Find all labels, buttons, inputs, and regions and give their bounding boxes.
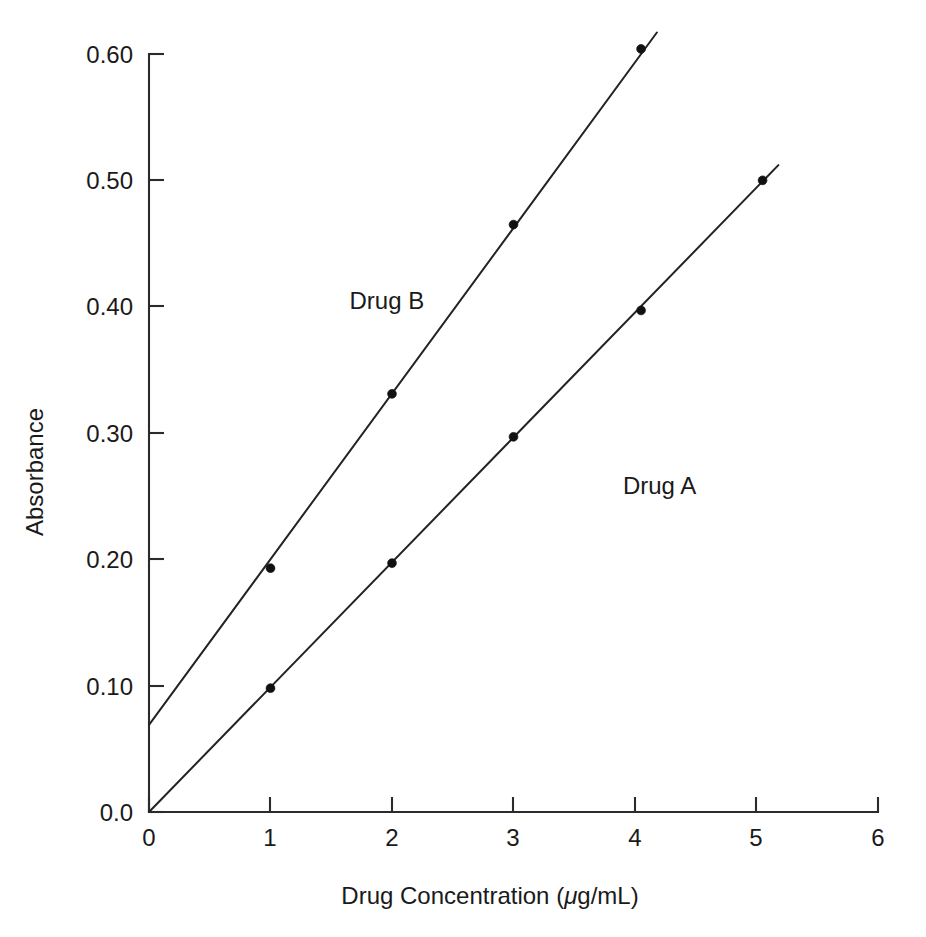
x-axis-title: Drug Concentration (μg/mL) xyxy=(341,882,638,909)
x-tick-group xyxy=(149,797,878,812)
y-tick-label: 0.10 xyxy=(86,673,133,700)
data-point-marker xyxy=(388,389,397,398)
y-axis-title: Absorbance xyxy=(21,408,48,536)
x-tick-labels: 0 1 2 3 4 5 6 xyxy=(142,824,884,851)
y-tick-group xyxy=(149,54,164,812)
y-tick-label: 0.20 xyxy=(86,546,133,573)
data-point-marker xyxy=(266,564,275,573)
x-tick-label: 0 xyxy=(142,824,155,851)
series-label-drug-a: Drug A xyxy=(623,472,696,499)
data-point-marker xyxy=(509,220,518,229)
y-tick-label: 0.50 xyxy=(86,167,133,194)
x-axis-title-prefix: Drug Concentration ( xyxy=(341,882,564,909)
data-point-marker xyxy=(266,684,275,693)
absorbance-vs-concentration-chart: 0.60 0.50 0.40 0.30 0.20 0.10 0.0 0 1 2 … xyxy=(0,0,926,937)
data-point-marker xyxy=(637,306,646,315)
y-tick-label: 0.0 xyxy=(100,799,133,826)
y-tick-label: 0.30 xyxy=(86,420,133,447)
x-tick-label: 2 xyxy=(385,824,398,851)
y-tick-labels: 0.60 0.50 0.40 0.30 0.20 0.10 0.0 xyxy=(86,41,133,826)
series-drug-b xyxy=(149,33,657,725)
data-point-marker xyxy=(509,432,518,441)
x-tick-label: 4 xyxy=(628,824,641,851)
mu-symbol: μ xyxy=(563,882,577,909)
x-tick-label: 5 xyxy=(749,824,762,851)
drug-b-markers xyxy=(266,45,645,573)
data-point-marker xyxy=(388,559,397,568)
data-point-marker xyxy=(637,45,646,54)
x-tick-label: 6 xyxy=(871,824,884,851)
y-tick-label: 0.40 xyxy=(86,293,133,320)
x-axis-title-suffix: g/mL) xyxy=(577,882,638,909)
x-tick-label: 3 xyxy=(506,824,519,851)
series-label-drug-b: Drug B xyxy=(350,287,425,314)
data-point-marker xyxy=(758,176,767,185)
drug-b-line xyxy=(149,33,657,725)
y-tick-label: 0.60 xyxy=(86,41,133,68)
x-tick-label: 1 xyxy=(263,824,276,851)
chart-figure: 0.60 0.50 0.40 0.30 0.20 0.10 0.0 0 1 2 … xyxy=(0,0,926,937)
